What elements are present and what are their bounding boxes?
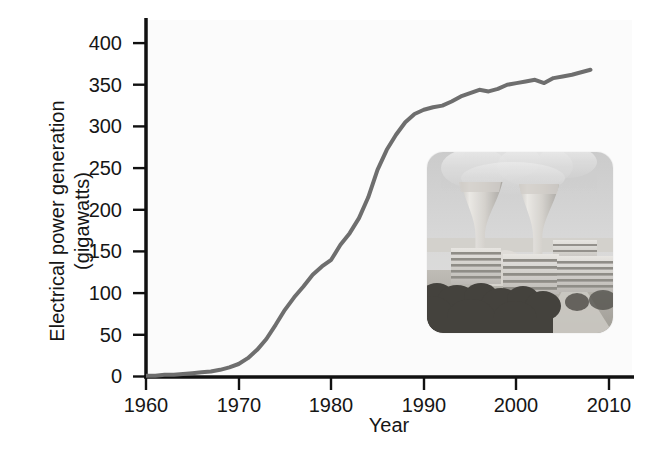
x-axis-ticks <box>146 377 609 390</box>
power-plant-illustration <box>427 152 613 333</box>
x-tick-label-1980: 1980 <box>309 394 354 417</box>
y-axis-title-line2: (gigawatts) <box>70 61 95 381</box>
photo-grain <box>427 152 613 333</box>
x-axis-title: Year <box>369 414 409 437</box>
chart-figure: 400 350 300 250 200 150 100 50 0 1960 19… <box>0 0 662 462</box>
y-axis-ticks <box>133 43 146 376</box>
x-tick-label-1970: 1970 <box>217 394 262 417</box>
x-tick-label-2010: 2010 <box>587 394 632 417</box>
x-tick-label-2000: 2000 <box>494 394 539 417</box>
nuclear-power-plant-photo <box>427 152 613 333</box>
y-axis-title: Electrical power generation (gigawatts) <box>45 61 95 381</box>
x-tick-label-1960: 1960 <box>124 394 169 417</box>
y-tick-label-400: 400 <box>46 32 122 55</box>
y-axis-title-line1: Electrical power generation <box>45 61 70 381</box>
